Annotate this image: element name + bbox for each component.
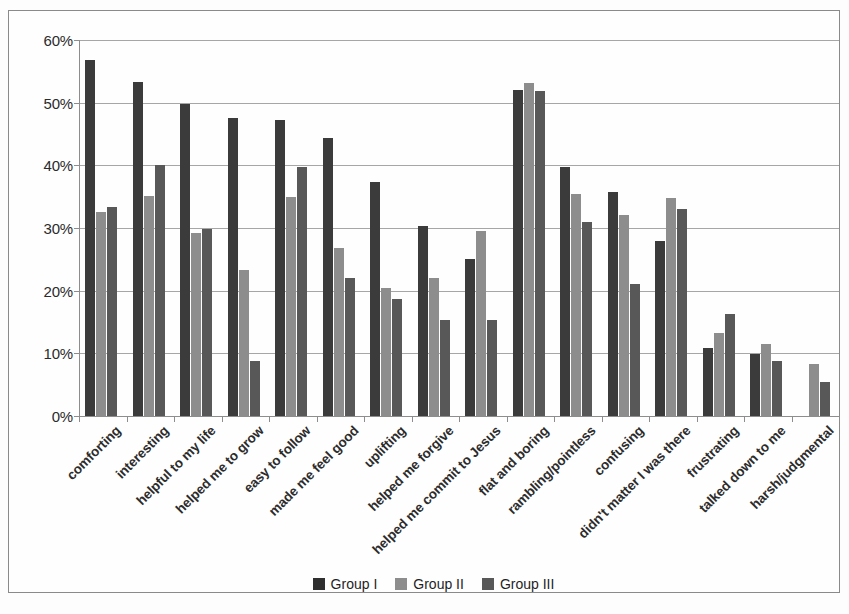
bar-group bbox=[174, 40, 222, 416]
bar bbox=[250, 361, 260, 416]
bar-group bbox=[792, 40, 840, 416]
bar bbox=[133, 82, 143, 416]
x-tick-mark bbox=[412, 416, 413, 422]
bar bbox=[202, 229, 212, 416]
x-tick-mark bbox=[269, 416, 270, 422]
bar bbox=[750, 354, 760, 416]
bar-group bbox=[697, 40, 745, 416]
bar bbox=[619, 215, 629, 416]
bar-group bbox=[269, 40, 317, 416]
x-tick-mark bbox=[554, 416, 555, 422]
x-tick-mark bbox=[364, 416, 365, 422]
x-axis-label: harsh/judgmental bbox=[747, 423, 836, 512]
bar bbox=[180, 104, 190, 416]
legend-item[interactable]: Group III bbox=[482, 576, 554, 592]
x-axis-label: talked down to me bbox=[696, 423, 789, 516]
x-tick-mark bbox=[127, 416, 128, 422]
bar bbox=[191, 233, 201, 416]
x-tick-mark bbox=[459, 416, 460, 422]
figure-frame: 0%10%20%30%40%50%60% comfortinginteresti… bbox=[8, 10, 840, 593]
bar bbox=[820, 382, 830, 416]
x-tick-mark bbox=[507, 416, 508, 422]
legend-label: Group I bbox=[331, 576, 378, 592]
bar bbox=[286, 197, 296, 416]
x-tick-mark bbox=[744, 416, 745, 422]
legend-label: Group II bbox=[413, 576, 464, 592]
x-axis-label: helped me forgive bbox=[365, 423, 456, 514]
bar bbox=[655, 241, 665, 416]
x-tick-mark bbox=[174, 416, 175, 422]
bar bbox=[228, 118, 238, 416]
bar bbox=[772, 361, 782, 416]
bar bbox=[345, 278, 355, 416]
bar bbox=[809, 364, 819, 416]
bar bbox=[85, 60, 95, 416]
bar bbox=[155, 165, 165, 416]
x-axis-category-labels: comfortinginterestinghelpful to my lifeh… bbox=[79, 423, 849, 573]
bar bbox=[476, 231, 486, 416]
bar bbox=[608, 192, 618, 416]
bar-group bbox=[412, 40, 460, 416]
bar-group bbox=[507, 40, 555, 416]
bar bbox=[714, 333, 724, 416]
y-tick-label: 40% bbox=[44, 157, 73, 174]
x-tick-mark bbox=[602, 416, 603, 422]
bar bbox=[465, 259, 475, 416]
x-tick-mark bbox=[317, 416, 318, 422]
bar bbox=[524, 83, 534, 416]
y-tick-label: 10% bbox=[44, 345, 73, 362]
bar-group bbox=[222, 40, 270, 416]
bar bbox=[725, 314, 735, 416]
legend-item[interactable]: Group I bbox=[313, 576, 378, 592]
bar bbox=[560, 167, 570, 416]
bar bbox=[571, 194, 581, 416]
chart-legend: Group IGroup IIGroup III bbox=[9, 576, 849, 592]
bar bbox=[144, 196, 154, 416]
bar bbox=[392, 299, 402, 416]
bar bbox=[677, 209, 687, 416]
bar bbox=[370, 182, 380, 416]
bar-group bbox=[744, 40, 792, 416]
bar-group bbox=[554, 40, 602, 416]
legend-item[interactable]: Group II bbox=[395, 576, 464, 592]
bar-group bbox=[459, 40, 507, 416]
bars-layer bbox=[79, 40, 839, 416]
bar bbox=[630, 284, 640, 416]
y-tick-label: 30% bbox=[44, 220, 73, 237]
bar-group bbox=[127, 40, 175, 416]
legend-label: Group III bbox=[500, 576, 554, 592]
x-axis-label: helped me to grow bbox=[173, 423, 267, 517]
bar bbox=[323, 138, 333, 416]
x-tick-mark bbox=[839, 416, 840, 422]
bar bbox=[535, 91, 545, 416]
bar bbox=[487, 320, 497, 417]
chart-screenshot: 0%10%20%30%40%50%60% comfortinginteresti… bbox=[0, 0, 849, 614]
bar bbox=[239, 270, 249, 416]
y-tick-label: 50% bbox=[44, 94, 73, 111]
bar-group bbox=[364, 40, 412, 416]
legend-swatch-group-2 bbox=[395, 578, 407, 590]
bar bbox=[96, 212, 106, 416]
y-axis-labels: 0%10%20%30%40%50%60% bbox=[23, 40, 73, 416]
legend-swatch-group-1 bbox=[313, 578, 325, 590]
bar bbox=[429, 278, 439, 416]
bar bbox=[761, 344, 771, 416]
bar bbox=[513, 90, 523, 416]
bar bbox=[666, 198, 676, 416]
y-tick-label: 0% bbox=[52, 408, 73, 425]
bar bbox=[440, 320, 450, 417]
x-tick-mark bbox=[649, 416, 650, 422]
bar bbox=[334, 248, 344, 416]
bar bbox=[703, 348, 713, 416]
x-tick-mark bbox=[79, 416, 80, 422]
bar bbox=[107, 207, 117, 416]
bar-group bbox=[602, 40, 650, 416]
bar-group bbox=[317, 40, 365, 416]
x-tick-mark bbox=[792, 416, 793, 422]
x-axis-label: made me feel good bbox=[265, 423, 361, 519]
bar bbox=[297, 167, 307, 416]
plot-area bbox=[79, 40, 839, 416]
x-tick-mark bbox=[697, 416, 698, 422]
y-tick-label: 20% bbox=[44, 282, 73, 299]
bar-group bbox=[649, 40, 697, 416]
